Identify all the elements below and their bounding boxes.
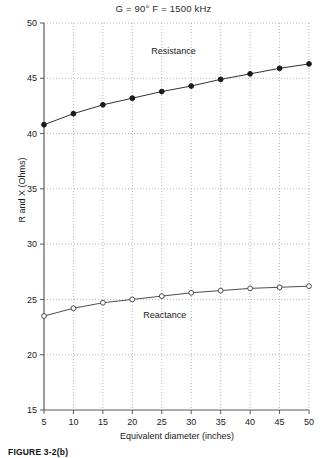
svg-text:50: 50 (27, 18, 37, 28)
data-point-marker (189, 84, 194, 89)
grid-lines (44, 23, 309, 410)
data-point-marker (100, 300, 105, 305)
series-label-reactance: Reactance (143, 310, 186, 320)
svg-text:20: 20 (27, 350, 37, 360)
svg-text:25: 25 (27, 295, 37, 305)
axis-lines (44, 23, 309, 410)
data-point-marker (130, 297, 135, 302)
data-point-marker (159, 294, 164, 299)
svg-text:5: 5 (41, 417, 46, 427)
data-point-marker (218, 77, 223, 82)
data-point-marker (71, 306, 76, 311)
data-point-marker (248, 286, 253, 291)
x-axis-ticks: 5101520253035404550 (41, 410, 314, 427)
figure-container: G = 90° F = 1500 kHz 1520253035404550 51… (0, 0, 327, 458)
data-point-marker (130, 96, 135, 101)
svg-text:50: 50 (304, 417, 314, 427)
data-point-marker (248, 71, 253, 76)
svg-text:35: 35 (27, 184, 37, 194)
data-point-marker (189, 290, 194, 295)
svg-text:20: 20 (127, 417, 137, 427)
svg-text:10: 10 (68, 417, 78, 427)
data-point-marker (42, 314, 47, 319)
data-point-marker (277, 285, 282, 290)
x-axis-label: Equivalent diameter (inches) (44, 431, 310, 441)
svg-text:30: 30 (186, 417, 196, 427)
y-axis-label: R and X (Ohms) (17, 120, 27, 260)
figure-caption: FIGURE 3-2(b) (8, 447, 68, 458)
data-point-marker (307, 284, 312, 289)
data-point-marker (159, 89, 164, 94)
svg-text:30: 30 (27, 239, 37, 249)
svg-text:40: 40 (245, 417, 255, 427)
data-point-marker (71, 111, 76, 116)
data-point-marker (42, 122, 47, 127)
svg-text:45: 45 (275, 417, 285, 427)
series-label-resistance: Resistance (151, 46, 196, 56)
data-point-marker (307, 62, 312, 67)
data-series-group (42, 62, 312, 319)
series-line-resistance (44, 64, 309, 125)
data-point-marker (218, 288, 223, 293)
chart-plot-area: 1520253035404550 5101520253035404550 Res… (0, 0, 327, 458)
y-axis-ticks: 1520253035404550 (27, 18, 44, 415)
data-point-marker (277, 66, 282, 71)
svg-text:45: 45 (27, 73, 37, 83)
svg-text:15: 15 (27, 405, 37, 415)
svg-text:15: 15 (98, 417, 108, 427)
svg-text:25: 25 (157, 417, 167, 427)
svg-text:35: 35 (216, 417, 226, 427)
data-point-marker (100, 102, 105, 107)
svg-text:40: 40 (27, 129, 37, 139)
